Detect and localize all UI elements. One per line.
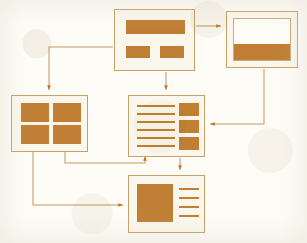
text-line — [137, 129, 175, 131]
text-line — [137, 121, 175, 123]
left-tile-block — [126, 46, 150, 58]
hero-banner-block — [126, 20, 185, 34]
home-page-wireframe[interactable] — [114, 9, 195, 71]
text-line — [137, 113, 175, 115]
feature-image-block — [137, 184, 173, 222]
gallery-grid-wireframe[interactable] — [11, 95, 88, 152]
text-line — [179, 215, 199, 217]
text-line — [179, 206, 199, 208]
sidebar-tile-1 — [179, 103, 199, 116]
connector-browser-to-article-list — [210, 69, 264, 124]
article-list-wireframe[interactable] — [128, 95, 205, 157]
browser-window-wireframe[interactable] — [226, 11, 298, 68]
grid-cell-top-right — [53, 103, 81, 122]
detail-page-wireframe[interactable] — [128, 175, 205, 233]
viewport-area — [233, 18, 291, 61]
diagram-canvas — [0, 0, 307, 243]
grid-cell-bottom-left — [21, 125, 49, 144]
text-line — [137, 137, 175, 139]
connector-home-to-gallery — [49, 47, 113, 90]
text-line — [137, 145, 175, 147]
sidebar-tile-3 — [179, 137, 199, 150]
grid-cell-bottom-right — [53, 125, 81, 144]
text-line — [137, 105, 175, 107]
text-line — [179, 197, 199, 199]
sidebar-tile-2 — [179, 120, 199, 133]
connector-gallery-to-detail — [33, 152, 123, 205]
grid-cell-top-left — [21, 103, 49, 122]
right-tile-block — [160, 46, 184, 58]
footer-band-block — [234, 44, 290, 60]
text-line — [179, 188, 199, 190]
